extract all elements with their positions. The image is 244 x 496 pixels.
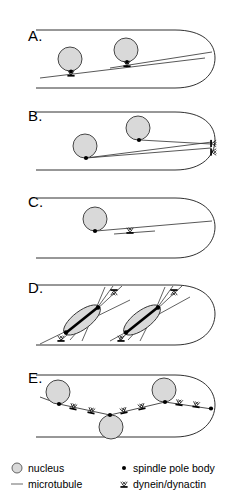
nucleus-group-b2 <box>73 134 97 160</box>
spindle-pole-body <box>156 305 160 309</box>
spindle-pole-body <box>84 156 88 160</box>
panel-e: E. <box>28 369 215 439</box>
nucleus-group-a2 <box>114 38 138 67</box>
spindle-pole-body <box>57 402 61 406</box>
dynein-dynactin-icon <box>126 228 133 234</box>
legend-label-dynein-dynactin: dynein/dynactin <box>133 478 206 490</box>
dynein-dynactin-icon <box>170 289 177 295</box>
nucleus-group-e3 <box>152 378 176 404</box>
spindle-group-d2 <box>110 286 190 342</box>
nucleus <box>73 134 97 158</box>
microtubule <box>114 231 155 234</box>
hypha-outline-b <box>36 112 215 170</box>
microtubule <box>86 142 212 158</box>
dynein-dynactin-icon <box>210 140 216 147</box>
nucleus <box>152 378 176 402</box>
nucleus-group-c1 <box>83 207 107 233</box>
spindle-pole-body <box>124 330 128 334</box>
nuclear-migration-figure: A. B. <box>0 0 244 496</box>
microtubule-group-c <box>96 221 212 234</box>
nucleus <box>99 415 123 439</box>
spindle-pole-body <box>93 229 97 233</box>
dynein-dynactin-icon <box>175 399 183 406</box>
microtubule <box>59 404 110 415</box>
microtubule-group-b <box>86 140 212 158</box>
spindle-pole-body <box>64 330 68 334</box>
spindle-group-d1 <box>40 286 130 344</box>
nucleus <box>46 380 70 404</box>
panel-a: A. <box>28 27 215 88</box>
panel-c: C. <box>28 193 215 258</box>
spindle-pole-body <box>209 406 213 410</box>
dynein-dynactin-icon <box>120 482 127 488</box>
panel-e-label: E. <box>28 369 43 386</box>
nucleus-group-e1 <box>46 380 70 406</box>
legend: nucleus microtubule spindle pole body dy… <box>11 462 215 490</box>
spindle-pole-body <box>96 305 100 309</box>
dynein-dynactin-icon <box>57 336 64 342</box>
panel-c-label: C. <box>28 193 43 210</box>
legend-label-nucleus: nucleus <box>28 462 64 474</box>
dynein-dynactin-icon <box>123 61 130 67</box>
nucleus <box>58 47 82 71</box>
panel-b-label: B. <box>28 107 43 124</box>
nucleus <box>126 116 150 140</box>
nucleus <box>114 38 138 62</box>
legend-label-microtubule: microtubule <box>28 478 82 490</box>
panel-b: B. <box>28 107 216 170</box>
hypha-outline-d <box>36 285 215 345</box>
spindle-pole-body-icon <box>122 466 126 470</box>
spindle-pole-body <box>163 400 167 404</box>
microtubule <box>96 221 212 231</box>
dynein-dynactin-icon <box>110 289 117 295</box>
nucleus-group-a1 <box>58 47 82 77</box>
nucleus-group-e2 <box>99 413 123 439</box>
microtubule <box>110 402 165 415</box>
panel-d-label: D. <box>28 279 43 296</box>
nucleus-icon <box>12 463 22 473</box>
nucleus <box>83 207 107 231</box>
spindle-pole-body <box>108 413 112 417</box>
microtubule <box>165 402 212 409</box>
panel-d: D. <box>28 279 215 345</box>
dynein-dynactin-icon <box>192 401 200 408</box>
microtubule <box>86 148 211 158</box>
spindle-pole-body <box>137 138 141 142</box>
dynein-dynactin-icon <box>67 70 74 76</box>
nucleus-group-b1 <box>126 116 150 142</box>
legend-label-spindle-pole-body: spindle pole body <box>133 462 215 474</box>
hypha-outline-c <box>36 198 215 258</box>
